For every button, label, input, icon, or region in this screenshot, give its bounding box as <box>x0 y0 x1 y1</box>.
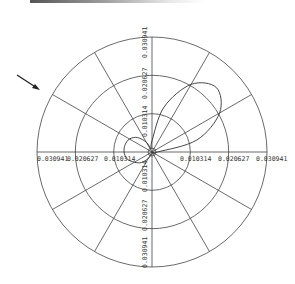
tick-right-outer: 0.030941 <box>256 155 287 163</box>
tick-left-outer: 0.030941 <box>37 155 68 163</box>
tick-left-inner: 0.010314 <box>104 155 135 163</box>
tick-top-outer: 0.030941 <box>141 27 149 58</box>
grid-spoke <box>152 152 210 252</box>
tick-left-mid: 0.020627 <box>67 155 98 163</box>
tick-top-mid: 0.020627 <box>141 68 149 99</box>
polar-plot: 0.030941 0.020627 0.010314 0.030941 0.02… <box>0 0 295 284</box>
pattern-curve <box>124 83 221 163</box>
pattern-line <box>124 83 221 163</box>
tick-bottom-outer: 0.030941 <box>141 237 149 268</box>
arrow-icon <box>17 75 40 90</box>
grid-spoke <box>52 95 152 153</box>
tick-right-inner: 0.010314 <box>180 155 211 163</box>
tick-top-inner: 0.010314 <box>141 106 149 137</box>
tick-right-mid: 0.020627 <box>218 155 249 163</box>
tick-bottom-inner: 0.010314 <box>141 161 149 192</box>
tick-bottom-mid: 0.020627 <box>141 200 149 231</box>
polar-grid <box>37 37 267 267</box>
